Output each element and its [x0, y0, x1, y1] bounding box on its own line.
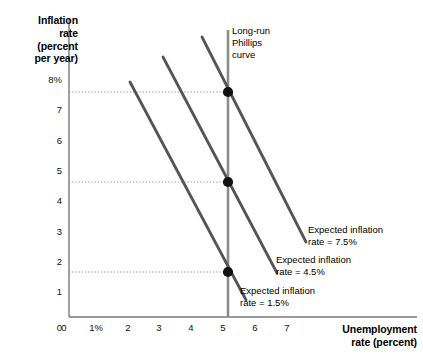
x-tick-label-2: 2	[116, 322, 140, 334]
phillips-curve-figure: Inflationrate(percentper year) Unemploym…	[0, 0, 423, 362]
y-tick-label-6: 6	[38, 135, 62, 147]
x-tick-label-6: 6	[243, 322, 267, 334]
long-run-phillips-curve-label: Long-runPhillipscurve	[232, 25, 270, 61]
exp75-label-line-1: Expected inflation	[308, 224, 383, 235]
x-tick-label-0: 0	[52, 322, 76, 334]
x-tick-label-1: 1%	[84, 322, 108, 334]
short-run-phillips-curve-45	[163, 57, 277, 273]
y-tick-label-7: 7	[38, 104, 62, 116]
x-axis-title-line-2: rate (percent)	[351, 336, 417, 348]
y-tick-label-3: 3	[38, 226, 62, 238]
exp15-label-line-1: Expected inflation	[240, 285, 315, 296]
x-axis-title: Unemploymentrate (percent)	[305, 323, 417, 349]
y-tick-label-8: 8%	[38, 74, 62, 86]
x-axis-title-line-1: Unemployment	[342, 323, 417, 335]
x-tick-label-7: 7	[275, 322, 299, 334]
exp75-label-line-2: rate = 7.5%	[308, 236, 357, 247]
y-axis-title-line-3: (percent	[37, 40, 78, 52]
long-run-label-line-2: Phillips	[232, 37, 262, 48]
exp45-label-line-2: rate = 4.5%	[276, 266, 325, 277]
long-run-label-line-1: Long-run	[232, 25, 270, 36]
x-tick-label-4: 4	[179, 322, 203, 334]
y-tick-label-1: 1	[38, 286, 62, 298]
x-tick-label-3: 3	[147, 322, 171, 334]
y-axis-title-line-2: rate	[59, 27, 78, 39]
short-run-phillips-curve-75	[202, 37, 306, 242]
equilibrium-point-75	[223, 87, 233, 97]
equilibrium-point-15	[223, 267, 233, 277]
y-tick-label-4: 4	[38, 195, 62, 207]
long-run-label-line-3: curve	[232, 49, 255, 60]
expected-inflation-15-label: Expected inflationrate = 1.5%	[240, 285, 315, 309]
expected-inflation-75-label: Expected inflationrate = 7.5%	[308, 224, 383, 248]
y-tick-label-5: 5	[38, 165, 62, 177]
x-tick-label-5: 5	[211, 322, 235, 334]
y-axis-title-line-4: per year)	[35, 52, 78, 64]
y-tick-label-2: 2	[38, 256, 62, 268]
exp15-label-line-2: rate = 1.5%	[240, 297, 289, 308]
y-axis-title-line-1: Inflation	[38, 14, 78, 26]
expected-inflation-45-label: Expected inflationrate = 4.5%	[276, 254, 351, 278]
y-axis-title: Inflationrate(percentper year)	[8, 14, 78, 65]
equilibrium-point-45	[223, 177, 233, 187]
exp45-label-line-1: Expected inflation	[276, 254, 351, 265]
